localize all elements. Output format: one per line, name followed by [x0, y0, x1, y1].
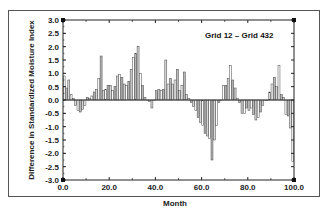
bar	[248, 100, 250, 111]
bar	[121, 77, 123, 100]
bar	[250, 100, 252, 108]
bar	[186, 95, 188, 100]
bar	[167, 84, 169, 100]
chart-title: Grid 12 – Grid 432	[205, 31, 274, 40]
bar	[75, 100, 77, 105]
bar	[260, 100, 262, 112]
bar	[132, 57, 134, 100]
bar	[280, 95, 282, 100]
bar	[160, 91, 162, 100]
y-tick-label: 2.5	[48, 29, 60, 38]
bar	[179, 91, 181, 100]
bar	[102, 91, 104, 100]
bar	[271, 84, 273, 100]
bar	[257, 100, 259, 117]
bar	[225, 85, 227, 100]
bar	[112, 91, 114, 100]
y-tick-label: -2.0	[45, 149, 59, 158]
bar	[202, 100, 204, 125]
bar	[123, 84, 125, 100]
bar	[229, 65, 231, 100]
y-tick-label: 1.0	[48, 69, 60, 78]
bar	[197, 100, 199, 117]
x-tick-label: 20.0	[101, 183, 117, 192]
bar	[211, 100, 213, 160]
y-tick-label: 2.0	[48, 43, 60, 52]
bar	[199, 100, 201, 123]
x-tick-label: 0.0	[57, 183, 69, 192]
bar	[193, 100, 195, 107]
bar-series	[63, 47, 294, 162]
bar	[91, 96, 93, 100]
y-axis-title: Difference in Standardized Moisture Inde…	[27, 20, 36, 180]
x-axis-title: Month	[163, 199, 187, 208]
bar	[209, 100, 211, 139]
bar	[176, 69, 178, 100]
bar	[77, 100, 79, 111]
y-tick-label: -1.0	[45, 123, 59, 132]
bar	[156, 91, 158, 100]
bar	[216, 100, 218, 125]
bar	[109, 85, 111, 100]
bar-chart: 3.02.52.01.51.00.50.0-0.5-1.0-1.5-2.0-2.…	[0, 0, 334, 210]
bar	[223, 85, 225, 100]
y-tick-label: 3.0	[48, 16, 60, 25]
bar	[65, 88, 67, 100]
bar	[181, 85, 183, 100]
y-tick-label: -2.5	[45, 163, 59, 172]
bar	[119, 75, 121, 100]
bar	[169, 79, 171, 100]
y-tick-label: 1.5	[48, 56, 60, 65]
bar	[183, 72, 185, 100]
bar	[232, 80, 234, 100]
bar	[96, 89, 98, 100]
bar	[278, 65, 280, 100]
bar	[204, 100, 206, 133]
bar	[135, 53, 137, 100]
bar	[163, 89, 165, 100]
bar	[142, 85, 144, 100]
bar	[172, 84, 174, 100]
bar	[255, 100, 257, 120]
bar	[158, 89, 160, 100]
x-tick-label: 100.0	[284, 183, 305, 192]
bar	[285, 100, 287, 115]
bar	[213, 100, 215, 140]
y-tick-label: 0.5	[48, 83, 60, 92]
bar	[139, 73, 141, 100]
bar	[128, 81, 130, 100]
x-tick-label: 80.0	[240, 183, 256, 192]
bar	[234, 88, 236, 100]
bar	[165, 60, 167, 100]
bar	[130, 69, 132, 100]
bar	[126, 85, 128, 100]
bar	[276, 87, 278, 100]
x-tick-label: 60.0	[194, 183, 210, 192]
bar	[151, 100, 153, 108]
bar	[195, 100, 197, 111]
bar	[93, 92, 95, 100]
bar	[68, 80, 70, 100]
y-tick-label: -1.5	[45, 136, 59, 145]
x-tick-label: 40.0	[148, 183, 164, 192]
bar	[273, 77, 275, 100]
bar	[107, 85, 109, 100]
bar	[290, 100, 292, 128]
bar	[116, 76, 118, 100]
bar	[100, 56, 102, 100]
bar	[206, 100, 208, 136]
bar	[82, 100, 84, 109]
bar	[79, 100, 81, 112]
bar	[243, 100, 245, 113]
bar	[105, 89, 107, 100]
bar	[253, 100, 255, 115]
bar	[246, 100, 248, 108]
bar	[137, 47, 139, 100]
bar	[114, 87, 116, 100]
bar	[287, 100, 289, 116]
bar	[98, 79, 100, 100]
y-tick-label: 0.0	[48, 96, 60, 105]
bar	[84, 100, 86, 105]
y-tick-label: -0.5	[45, 109, 59, 118]
bar	[269, 92, 271, 100]
